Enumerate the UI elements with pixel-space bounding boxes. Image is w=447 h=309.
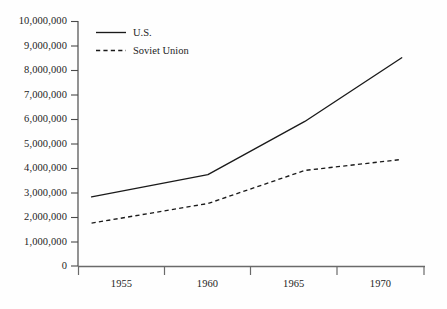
y-axis-tick-label: 1,000,000	[24, 236, 67, 247]
chart-figure: 01,000,0002,000,0003,000,0004,000,0005,0…	[0, 0, 447, 309]
legend-label-us: U.S.	[133, 27, 152, 38]
x-axis-tick-label: 1960	[178, 278, 238, 289]
y-axis-tick-label: 2,000,000	[24, 211, 67, 222]
y-axis-tick-label: 6,000,000	[24, 113, 67, 124]
series-line-soviet-union	[92, 159, 402, 223]
x-axis-tick-label: 1970	[351, 278, 411, 289]
y-axis-ticks	[71, 22, 78, 267]
y-axis-tick-label: 5,000,000	[24, 138, 67, 149]
y-axis-tick-label: 9,000,000	[24, 40, 67, 51]
y-axis-tick-label: 4,000,000	[24, 162, 67, 173]
plot-area	[0, 0, 447, 309]
y-axis-tick-label: 3,000,000	[24, 187, 67, 198]
y-axis-tick-label: 7,000,000	[24, 89, 67, 100]
x-axis-ticks	[79, 266, 425, 275]
y-axis-tick-label: 10,000,000	[19, 15, 67, 26]
x-axis-tick-label: 1965	[264, 278, 324, 289]
y-axis-tick-label: 8,000,000	[24, 64, 67, 75]
legend-label-soviet-union: Soviet Union	[133, 45, 189, 56]
y-axis-tick-label: 0	[62, 260, 67, 271]
x-axis-tick-label: 1955	[92, 278, 152, 289]
series-line-us	[92, 58, 402, 197]
